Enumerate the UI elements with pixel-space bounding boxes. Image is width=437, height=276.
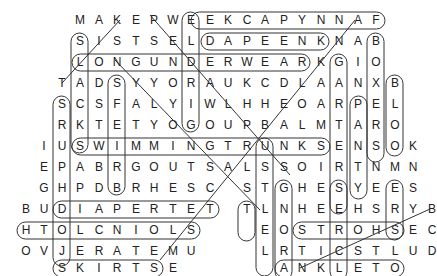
grid-letter[interactable]: H <box>238 95 256 113</box>
grid-letter[interactable]: D <box>182 53 200 71</box>
grid-letter[interactable]: L <box>219 95 237 113</box>
grid-letter[interactable]: R <box>293 53 311 71</box>
grid-letter[interactable]: P <box>71 179 89 197</box>
grid-letter[interactable]: H <box>367 221 385 239</box>
grid-letter[interactable]: E <box>35 158 53 176</box>
grid-letter[interactable]: N <box>275 200 293 218</box>
grid-letter[interactable]: C <box>71 95 89 113</box>
grid-letter[interactable]: R <box>330 95 348 113</box>
grid-letter[interactable]: U <box>219 116 237 134</box>
grid-letter[interactable]: P <box>53 158 71 176</box>
grid-letter[interactable]: K <box>312 259 330 276</box>
grid-letter[interactable]: U <box>219 74 237 92</box>
grid-letter[interactable]: B <box>90 158 108 176</box>
grid-letter[interactable]: R <box>90 242 108 260</box>
grid-letter[interactable]: T <box>127 259 145 276</box>
grid-letter[interactable]: D <box>201 32 219 50</box>
grid-letter[interactable]: C <box>201 179 219 197</box>
grid-letter[interactable]: P <box>145 11 163 29</box>
grid-letter[interactable]: E <box>330 200 348 218</box>
grid-letter[interactable]: U <box>164 158 182 176</box>
grid-letter[interactable]: T <box>312 221 330 239</box>
grid-letter[interactable]: A <box>219 158 237 176</box>
grid-letter[interactable]: E <box>201 11 219 29</box>
grid-letter[interactable]: B <box>367 32 385 50</box>
grid-letter[interactable]: A <box>201 74 219 92</box>
grid-letter[interactable]: E <box>108 116 126 134</box>
grid-letter[interactable]: N <box>182 137 200 155</box>
grid-letter[interactable]: R <box>367 116 385 134</box>
grid-letter[interactable]: Y <box>164 95 182 113</box>
grid-letter[interactable]: S <box>182 179 200 197</box>
grid-letter[interactable]: L <box>164 221 182 239</box>
grid-letter[interactable]: O <box>293 158 311 176</box>
grid-letter[interactable]: S <box>145 32 163 50</box>
grid-letter[interactable]: G <box>330 53 348 71</box>
grid-letter[interactable]: T <box>367 242 385 260</box>
grid-letter[interactable]: N <box>108 221 126 239</box>
grid-letter[interactable]: Y <box>145 116 163 134</box>
grid-letter[interactable]: A <box>275 259 293 276</box>
grid-letter[interactable]: N <box>275 137 293 155</box>
grid-letter[interactable]: P <box>349 95 367 113</box>
grid-letter[interactable]: D <box>275 74 293 92</box>
grid-letter[interactable]: R <box>53 116 71 134</box>
grid-letter[interactable]: H <box>293 179 311 197</box>
grid-letter[interactable]: O <box>17 242 35 260</box>
grid-letter[interactable]: A <box>90 11 108 29</box>
grid-letter[interactable]: C <box>90 221 108 239</box>
grid-letter[interactable]: A <box>275 53 293 71</box>
grid-letter[interactable]: Y <box>404 200 422 218</box>
grid-letter[interactable]: E <box>312 200 330 218</box>
grid-letter[interactable]: D <box>90 179 108 197</box>
grid-letter[interactable]: K <box>312 53 330 71</box>
grid-letter[interactable]: R <box>275 242 293 260</box>
grid-letter[interactable]: S <box>108 74 126 92</box>
grid-letter[interactable]: E <box>127 11 145 29</box>
grid-letter[interactable]: P <box>238 32 256 50</box>
grid-letter[interactable]: T <box>330 116 348 134</box>
grid-letter[interactable]: A <box>256 11 274 29</box>
grid-letter[interactable]: L <box>71 53 89 71</box>
grid-letter[interactable]: E <box>145 242 163 260</box>
grid-letter[interactable]: N <box>164 53 182 71</box>
grid-letter[interactable]: O <box>386 137 404 155</box>
grid-letter[interactable]: D <box>53 200 71 218</box>
grid-letter[interactable]: H <box>145 179 163 197</box>
grid-letter[interactable]: S <box>293 221 311 239</box>
grid-letter[interactable]: E <box>256 32 274 50</box>
grid-letter[interactable]: N <box>349 74 367 92</box>
grid-letter[interactable]: E <box>71 242 89 260</box>
grid-letter[interactable]: I <box>349 53 367 71</box>
grid-letter[interactable]: B <box>386 74 404 92</box>
grid-letter[interactable]: M <box>386 158 404 176</box>
grid-letter[interactable]: A <box>71 74 89 92</box>
grid-letter[interactable]: E <box>256 221 274 239</box>
grid-letter[interactable]: A <box>127 95 145 113</box>
grid-letter[interactable]: H <box>256 95 274 113</box>
grid-letter[interactable]: K <box>238 74 256 92</box>
grid-letter[interactable]: H <box>349 200 367 218</box>
grid-letter[interactable]: E <box>275 95 293 113</box>
grid-letter[interactable]: Y <box>127 74 145 92</box>
grid-letter[interactable]: N <box>404 158 422 176</box>
grid-letter[interactable]: K <box>219 11 237 29</box>
grid-letter[interactable]: T <box>367 259 385 276</box>
grid-letter[interactable]: M <box>127 137 145 155</box>
grid-letter[interactable]: A <box>349 116 367 134</box>
grid-letter[interactable]: V <box>35 242 53 260</box>
grid-letter[interactable]: Y <box>293 11 311 29</box>
grid-letter[interactable]: M <box>71 11 89 29</box>
grid-letter[interactable]: N <box>312 11 330 29</box>
grid-letter[interactable]: T <box>256 179 274 197</box>
grid-letter[interactable]: G <box>127 158 145 176</box>
grid-letter[interactable]: E <box>404 221 422 239</box>
grid-letter[interactable]: T <box>127 32 145 50</box>
grid-letter[interactable]: O <box>386 116 404 134</box>
grid-letter[interactable]: R <box>108 158 126 176</box>
grid-letter[interactable]: B <box>108 179 126 197</box>
grid-letter[interactable]: G <box>201 137 219 155</box>
grid-letter[interactable]: G <box>35 179 53 197</box>
grid-letter[interactable]: O <box>293 95 311 113</box>
grid-letter[interactable]: O <box>164 116 182 134</box>
